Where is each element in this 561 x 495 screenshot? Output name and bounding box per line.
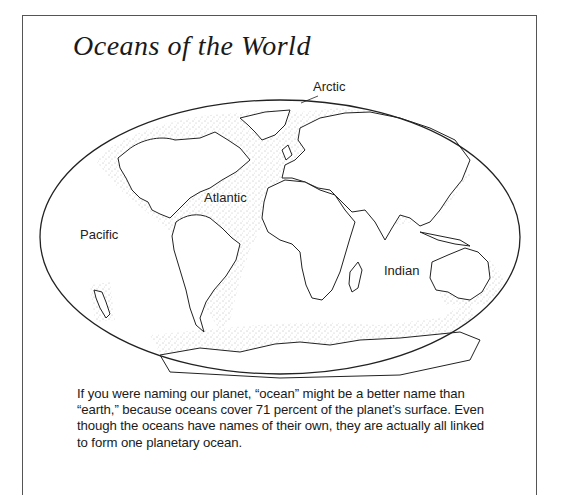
- label-pacific: Pacific: [80, 227, 118, 242]
- label-indian: Indian: [384, 263, 419, 278]
- body-paragraph: If you were naming our planet, “ocean” m…: [77, 386, 497, 451]
- indonesia: [420, 232, 470, 246]
- madagascar: [349, 262, 362, 292]
- label-atlantic: Atlantic: [204, 190, 247, 205]
- australia: [430, 248, 490, 300]
- label-arctic: Arctic: [313, 79, 346, 94]
